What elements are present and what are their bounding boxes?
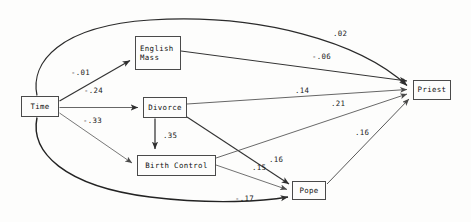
edge-time-priest xyxy=(36,19,407,96)
edge-english-mass-priest xyxy=(181,51,407,81)
node-priest[interactable]: Priest xyxy=(413,80,451,100)
edge-label-time-priest: .02 xyxy=(333,30,347,38)
edge-birth-control-priest xyxy=(216,94,407,158)
edge-label-time-birth-control: -.33 xyxy=(83,117,102,125)
node-divorce[interactable]: Divorce xyxy=(143,97,187,118)
edge-label-english-mass-priest: -.06 xyxy=(312,53,331,61)
node-priest-label: Priest xyxy=(418,85,447,94)
node-english-mass-label: English Mass xyxy=(140,44,174,63)
edge-label-time-pope: -.17 xyxy=(235,195,254,203)
edge-label-time-divorce: -.24 xyxy=(84,87,103,95)
edge-label-time-english-mass: -.01 xyxy=(71,69,90,77)
edge-label-divorce-pope: .16 xyxy=(269,156,283,164)
edge-label-birth-control-priest: .21 xyxy=(331,100,345,108)
node-divorce-label: Divorce xyxy=(148,103,182,112)
edge-label-divorce-birth-control: .35 xyxy=(163,132,177,140)
node-pope-label: Pope xyxy=(299,186,318,195)
edge-pope-priest xyxy=(327,99,409,184)
diagram-edges-layer xyxy=(0,0,471,222)
edge-label-divorce-priest: .14 xyxy=(295,87,309,95)
node-birth-control-label: Birth Control xyxy=(145,161,207,170)
node-birth-control[interactable]: Birth Control xyxy=(137,155,216,176)
node-time[interactable]: Time xyxy=(21,96,59,117)
edge-label-pope-priest: .16 xyxy=(355,129,369,137)
path-diagram: Time English Mass Divorce Birth Control … xyxy=(0,0,471,222)
node-pope[interactable]: Pope xyxy=(292,181,326,200)
edge-label-birth-control-pope: .15 xyxy=(252,164,266,172)
node-english-mass[interactable]: English Mass xyxy=(135,36,181,70)
node-time-label: Time xyxy=(30,102,49,111)
